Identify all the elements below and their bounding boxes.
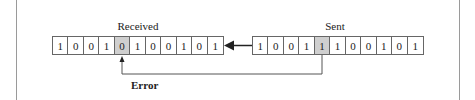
transmit-arrow-head — [224, 41, 234, 51]
error-arrow-line — [122, 55, 322, 74]
arrows — [0, 0, 475, 100]
error-label: Error — [131, 79, 158, 91]
error-arrow-head — [120, 56, 125, 62]
